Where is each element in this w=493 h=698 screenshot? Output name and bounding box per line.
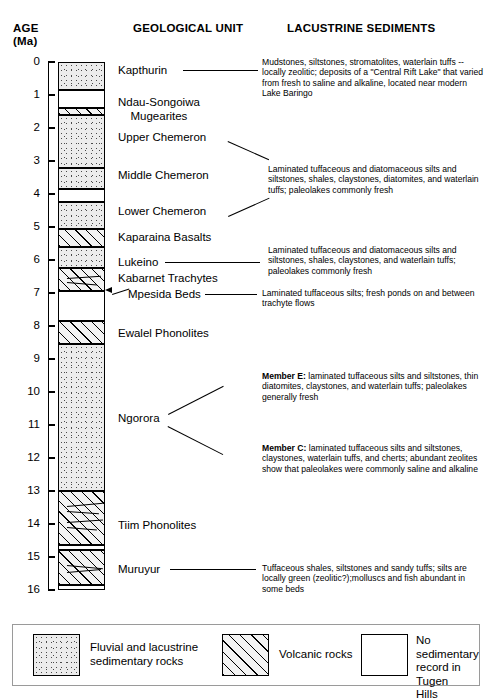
- stratigraphic-figure: AGE (Ma) GEOLOGICAL UNIT LACUSTRINE SEDI…: [0, 0, 493, 698]
- description-mpesida: Laminated tuffaceous silts; fresh ponds …: [262, 288, 484, 309]
- column-band-16: [59, 585, 104, 590]
- age-tick-label-6: 6: [14, 253, 40, 265]
- column-band-13: [59, 491, 104, 545]
- age-tick-label-15: 15: [14, 550, 40, 562]
- age-tick-label-2: 2: [14, 121, 40, 133]
- age-tick-label-13: 13: [14, 484, 40, 496]
- description-ngorora-member-e: Member E: laminated tuffaceous silts and…: [262, 371, 484, 402]
- leader-kapthurin: [183, 70, 258, 71]
- age-tick-label-0: 0: [14, 55, 40, 67]
- age-title-line2: (Ma): [13, 35, 39, 48]
- column-band-8: [59, 247, 104, 268]
- unit-label-kaparaina-basalts: Kaparaina Basalts: [118, 231, 211, 243]
- age-tick-6: [48, 259, 55, 260]
- unit-label-ngorora: Ngorora: [118, 412, 160, 424]
- column-band-6: [59, 202, 104, 228]
- unit-label-kapthurin: Kapthurin: [118, 64, 167, 76]
- column-band-9: [59, 268, 104, 291]
- age-tick-label-10: 10: [14, 385, 40, 397]
- column-band-12: [59, 344, 104, 491]
- legend-label-sedimentary: Fluvial and lacustrine sedimentary rocks: [90, 641, 198, 668]
- legend-no-record-line1: No sedimentary: [416, 634, 479, 661]
- unit-label-middle-chemeron: Middle Chemeron: [118, 169, 209, 181]
- age-tick-label-12: 12: [14, 451, 40, 463]
- age-tick-13: [48, 490, 55, 491]
- age-tick-15: [48, 556, 55, 557]
- age-tick-4: [48, 193, 55, 194]
- lacustrine-sediments-title: LACUSTRINE SEDIMENTS: [287, 22, 435, 34]
- description-muruyur: Tuffaceous shales, siltstones and sandy …: [262, 563, 484, 594]
- column-band-4: [59, 168, 104, 189]
- stratigraphic-column: [58, 62, 105, 590]
- unit-label-tiim-phonolites: Tiim Phonolites: [118, 519, 196, 531]
- age-tick-label-7: 7: [14, 286, 40, 298]
- leader-ngorora-member-e: [168, 386, 224, 415]
- legend-label-volcanic: Volcanic rocks: [279, 648, 353, 662]
- legend-swatch-volcanic: [222, 634, 269, 676]
- leader-muruyur: [170, 569, 256, 570]
- member-e-label: Member E:: [262, 371, 306, 381]
- legend-volcanic-line1: Volcanic rocks: [279, 648, 353, 662]
- column-band-1: [59, 90, 104, 108]
- age-tick-7: [48, 292, 55, 293]
- geological-unit-title: GEOLOGICAL UNIT: [133, 22, 243, 34]
- description-chemeron: Laminated tuffaceous and diatomaceous si…: [268, 164, 490, 195]
- member-c-label: Member C:: [262, 443, 306, 453]
- unit-label-upper-chemeron: Upper Chemeron: [118, 131, 206, 143]
- legend-swatch-sedimentary: [33, 634, 80, 676]
- column-band-5: [59, 189, 104, 202]
- age-tick-label-9: 9: [14, 352, 40, 364]
- unit-label-lukeino: Lukeino: [118, 256, 158, 268]
- legend-no-record-line2: record in Tugen: [416, 661, 479, 688]
- age-tick-10: [48, 391, 55, 392]
- legend-swatch-no-record: [361, 634, 408, 676]
- unit-label-ndau-songoiwa-mugearites: Ndau-Songoiwa Mugearites: [118, 96, 200, 123]
- column-band-11: [59, 321, 104, 344]
- age-tick-label-3: 3: [14, 154, 40, 166]
- leader-mpesida-to-column: [112, 288, 129, 295]
- age-tick-5: [48, 226, 55, 227]
- age-tick-2: [48, 127, 55, 128]
- column-band-2: [59, 108, 104, 115]
- leader-lukeino: [165, 262, 260, 263]
- mpesida-arrow-icon: [105, 287, 112, 293]
- legend-no-record-line3: Hills: [416, 688, 479, 698]
- description-kapthurin: Mudstones, siltstones, stromatolites, wa…: [262, 57, 484, 99]
- age-tick-3: [48, 160, 55, 161]
- column-band-0: [59, 62, 104, 90]
- age-tick-label-11: 11: [14, 418, 40, 430]
- age-tick-0: [48, 61, 55, 62]
- leader-ngorora-member-c: [168, 426, 224, 455]
- age-tick-12: [48, 457, 55, 458]
- description-ngorora-member-c: Member C: laminated tuffaceous silts and…: [262, 443, 484, 474]
- unit-label-muruyur: Muruyur: [118, 563, 160, 575]
- age-tick-label-1: 1: [14, 88, 40, 100]
- leader-lower-chemeron: [228, 198, 270, 217]
- age-tick-label-8: 8: [14, 319, 40, 331]
- legend: Fluvial and lacustrine sedimentary rocks…: [12, 624, 480, 686]
- leader-mpesida: [205, 294, 257, 295]
- age-tick-label-14: 14: [14, 517, 40, 529]
- age-tick-label-16: 16: [14, 583, 40, 595]
- age-axis-title: AGE (Ma): [13, 22, 39, 48]
- age-tick-label-4: 4: [14, 187, 40, 199]
- column-band-7: [59, 229, 104, 247]
- legend-label-no-record: No sedimentary record in Tugen Hills: [416, 634, 479, 698]
- description-lukeino: Laminated tuffaceous and diatomaceous si…: [268, 245, 490, 276]
- age-tick-8: [48, 325, 55, 326]
- column-band-3: [59, 115, 104, 167]
- age-tick-14: [48, 523, 55, 524]
- column-band-10: [59, 291, 104, 321]
- unit-label-kabarnet-trachytes: Kabarnet Trachytes: [118, 272, 218, 284]
- age-tick-11: [48, 424, 55, 425]
- unit-label-ndau-line1: Ndau-Songoiwa: [118, 96, 200, 110]
- unit-label-ndau-line2: Mugearites: [118, 110, 200, 124]
- age-tick-9: [48, 358, 55, 359]
- age-tick-label-5: 5: [14, 220, 40, 232]
- age-tick-16: [48, 589, 55, 590]
- unit-label-mpesida-beds: Mpesida Beds: [128, 288, 201, 300]
- legend-sedimentary-line1: Fluvial and lacustrine: [90, 641, 198, 655]
- legend-sedimentary-line2: sedimentary rocks: [90, 655, 198, 669]
- unit-label-ewalel-phonolites: Ewalel Phonolites: [118, 327, 209, 339]
- age-tick-1: [48, 94, 55, 95]
